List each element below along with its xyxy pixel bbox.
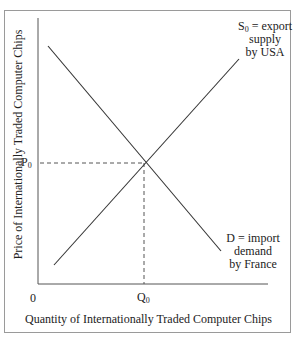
demand-curve [48,46,221,251]
demand-label: D = import demand by France [218,232,288,271]
supply-curve [54,59,239,265]
y-axis-title: Price of Internationally Traded Computer… [11,15,26,275]
origin-label: 0 [30,292,36,305]
x-axis-title: Quantity of Internationally Traded Compu… [0,313,297,326]
q0-tick-label: Q0 [137,291,150,304]
supply-label: S0 = export supply by USA [232,20,297,59]
